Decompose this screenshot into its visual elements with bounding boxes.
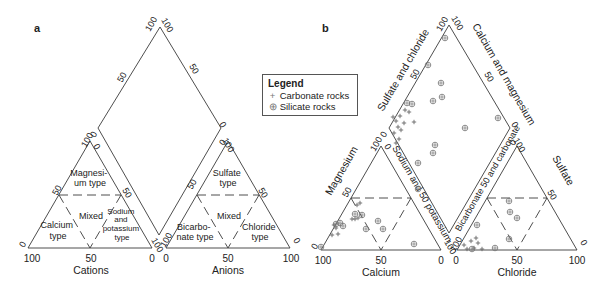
silicate-point <box>514 215 520 221</box>
central-diamond <box>98 27 221 235</box>
cation-tick-0: 0 <box>149 253 155 264</box>
silicate-point <box>430 150 436 156</box>
carbonate-point <box>399 128 403 132</box>
cation-tick-50: 50 <box>85 253 97 264</box>
carbonate-point <box>397 137 401 141</box>
piper-diagram-canvas: a Magnesi- um type Mixed Calcium type <box>0 0 604 282</box>
carbonate-point <box>474 236 478 240</box>
anion-divider-right <box>517 198 547 250</box>
carbonate-point <box>476 241 480 245</box>
region-mixed-cation: Mixed <box>79 211 103 221</box>
silicate-point <box>495 115 501 121</box>
carbonate-point <box>412 120 416 124</box>
carbonate-point <box>353 217 357 221</box>
silicate-point <box>439 94 445 100</box>
panel-a-side-ticks: 0 50 100 0 50 100 100 50 0 100 50 0 50 1… <box>17 15 302 254</box>
chloride-tick-100: 100 <box>569 255 586 266</box>
svg-text:50: 50 <box>545 188 559 202</box>
legend-item-carbonate: + Carbonate rocks <box>268 90 352 101</box>
silicate-point <box>352 211 358 217</box>
silicate-point <box>318 244 324 250</box>
silicate-point <box>506 236 512 242</box>
silicate-point <box>474 222 480 228</box>
cation-divider-right <box>381 198 411 250</box>
silicate-point <box>425 62 431 68</box>
svg-text:100: 100 <box>159 16 175 34</box>
svg-text:0: 0 <box>91 142 102 151</box>
anion-tick-100: 100 <box>283 253 300 264</box>
silicate-point <box>380 226 386 232</box>
region-chloride-type: Chloride type <box>242 222 278 242</box>
cation-divider-left <box>351 198 381 250</box>
calcium-tick-0: 0 <box>438 255 444 266</box>
carbonate-point <box>396 125 400 129</box>
svg-text:50: 50 <box>256 186 270 200</box>
cation-tick-100: 100 <box>24 253 41 264</box>
plus-marker-icon: + <box>268 90 277 101</box>
svg-text:100: 100 <box>368 135 384 153</box>
region-sodium-potassium-type: Sodium and potassium type <box>103 207 142 242</box>
silicate-point <box>469 246 475 252</box>
carbonate-point <box>407 110 411 114</box>
carbonate-point <box>469 239 473 243</box>
carbonate-point <box>336 232 340 236</box>
svg-text:50: 50 <box>408 67 422 81</box>
silicate-point <box>333 221 339 227</box>
carbonate-point <box>465 247 469 251</box>
silicate-point <box>359 212 365 218</box>
chloride-tick-50: 50 <box>511 255 523 266</box>
anion-tick-50: 50 <box>222 253 234 264</box>
silicate-point <box>507 209 513 215</box>
legend-box: Legend + Carbonate rocks ⊕ Silicate rock… <box>262 74 358 116</box>
silicate-point <box>411 241 417 247</box>
carbonate-point <box>462 243 466 247</box>
silicate-point <box>492 245 498 251</box>
anion-tick-0: 0 <box>163 253 169 264</box>
calcium-tick-100: 100 <box>315 255 332 266</box>
silicate-point <box>442 35 448 41</box>
panel-b-side-ticks: 0 50 100 0 50 100 100 50 0 100 50 0 100 … <box>309 14 589 256</box>
svg-text:100: 100 <box>143 15 159 33</box>
chloride-axis-title: Chloride <box>497 266 536 278</box>
legend-item-silicate: ⊕ Silicate rocks <box>268 101 352 112</box>
svg-text:100: 100 <box>434 15 450 33</box>
svg-text:0: 0 <box>17 240 28 249</box>
panel-b-label: b <box>322 22 329 34</box>
svg-text:0: 0 <box>217 120 228 129</box>
panel-a-label: a <box>34 22 41 34</box>
silicate-point <box>438 80 444 86</box>
sulfate-axis-title: Sulfate <box>550 153 577 187</box>
silicate-point <box>375 218 381 224</box>
region-magnesium-type: Magnesi- um type <box>70 168 110 188</box>
silicate-point <box>363 226 369 232</box>
silicate-point <box>462 125 468 131</box>
sample-points <box>318 35 520 252</box>
region-mixed-anion: Mixed <box>217 211 241 221</box>
region-calcium-type: Calcium type <box>40 220 75 241</box>
svg-text:50: 50 <box>482 70 496 84</box>
panel-b: b 100 50 0 Calcium 0 50 100 Chloride Mag… <box>309 14 589 278</box>
magnesium-axis-title: Magnesium <box>322 144 360 197</box>
silicate-point <box>506 198 512 204</box>
chloride-tick-0: 0 <box>453 255 459 266</box>
piper-diagram-figure: a Magnesi- um type Mixed Calcium type <box>0 0 604 282</box>
legend-title: Legend <box>268 78 352 89</box>
legend-label-silicate: Silicate rocks <box>280 101 336 112</box>
silicate-point <box>415 186 421 192</box>
silicate-point <box>340 223 346 229</box>
silicate-point <box>430 98 436 104</box>
svg-text:0: 0 <box>291 236 302 245</box>
silicate-point <box>415 160 421 166</box>
carbonate-point <box>398 114 402 118</box>
svg-text:100: 100 <box>158 231 174 249</box>
calcium-magnesium-axis-title: Calcium and magnesium <box>470 21 538 127</box>
anion-divider-left <box>487 198 517 250</box>
silicate-point <box>432 142 438 148</box>
sodium-potassium-axis-title: Sodium and 50 potassium <box>390 144 454 245</box>
anion-axis-title: Anions <box>212 264 244 276</box>
calcium-axis-title: Calcium <box>362 266 400 278</box>
svg-text:0: 0 <box>578 238 589 247</box>
region-sulfate-type: Sulfate type <box>213 168 244 188</box>
legend-label-carbonate: Carbonate rocks <box>280 90 350 101</box>
carbonate-point <box>403 108 407 112</box>
